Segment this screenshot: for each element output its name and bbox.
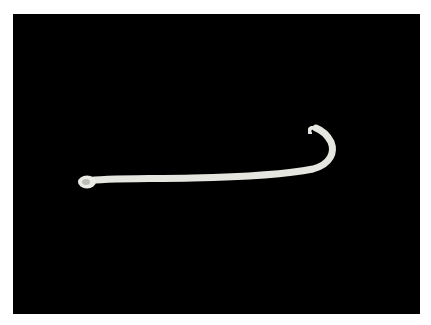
worm-specimen bbox=[13, 14, 420, 314]
specimen-photo bbox=[13, 14, 420, 314]
